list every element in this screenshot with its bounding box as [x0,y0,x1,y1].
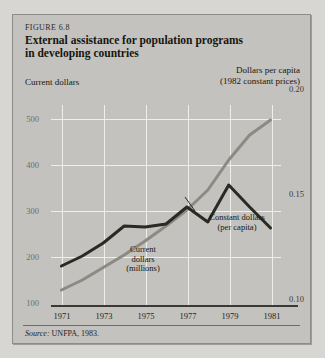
figure-number: FIGURE 6.8 [25,23,70,32]
series-plot [51,105,281,305]
xtick-1971: 1971 [42,311,82,321]
source-label: Source: [25,329,50,338]
ytick-right-015: 0.15 [289,189,325,199]
xtick-1975: 1975 [126,311,166,321]
annotation-current-line2: dollars [131,254,154,264]
ytick-left-400: 400 [0,160,39,170]
ytick-left-200: 200 [0,252,39,262]
right-axis-title: Dollars per capita (1982 constant prices… [220,65,300,87]
figure-title-line2: in developing countries [25,47,300,60]
xtick-1977: 1977 [168,311,208,321]
ytick-right-010: 0.10 [289,294,325,304]
source-text: UNFPA, 1983. [50,329,100,338]
annotation-current-line3: (millions) [126,263,160,273]
figure-title: External assistance for population progr… [25,34,300,60]
source-divider [23,325,300,326]
annotation-current-line1: Current [130,244,156,254]
annotation-constant-line2: (per capita) [218,222,257,232]
xtick-1979: 1979 [210,311,250,321]
source-note: Source: UNFPA, 1983. [25,329,99,338]
right-axis-title-line1: Dollars per capita [236,65,300,75]
ytick-left-500: 500 [0,114,39,124]
ytick-right-020: 0.20 [289,84,325,94]
ytick-left-100: 100 [0,298,39,308]
annotation-constant-dollars: Constant dollars (per capita) [189,213,285,232]
figure-title-line1: External assistance for population progr… [25,34,243,46]
xtick-1973: 1973 [84,311,124,321]
ytick-left-300: 300 [0,206,39,216]
x-axis-line [51,305,298,307]
annotation-constant-line1: Constant dollars [209,212,264,222]
left-axis-title: Current dollars [25,77,79,87]
xtick-1981: 1981 [252,311,292,321]
annotation-current-dollars: Current dollars (millions) [108,245,178,274]
figure-card: FIGURE 6.8 External assistance for popul… [12,14,311,344]
plot-area [51,105,281,305]
right-axis-title-line2: (1982 constant prices) [220,76,300,87]
